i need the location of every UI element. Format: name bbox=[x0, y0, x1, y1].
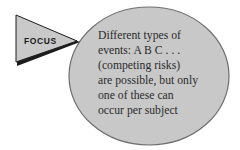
diagram-canvas: FOCUS Different types of events: A B C .… bbox=[0, 0, 240, 150]
balloon-text-line-4: are possible, but only bbox=[98, 74, 198, 87]
balloon-text-line-6: occur per subject bbox=[98, 104, 179, 117]
balloon-text-line-1: Different types of bbox=[98, 29, 181, 42]
focus-tag-label: FOCUS bbox=[24, 36, 57, 46]
balloon-text-line-3: (competing risks) bbox=[98, 59, 180, 72]
balloon-text-line-5: one of these can bbox=[98, 89, 174, 102]
focus-callout-diagram: FOCUS Different types of events: A B C .… bbox=[0, 0, 240, 150]
balloon-text-line-2: events: A B C . . . bbox=[98, 44, 180, 57]
